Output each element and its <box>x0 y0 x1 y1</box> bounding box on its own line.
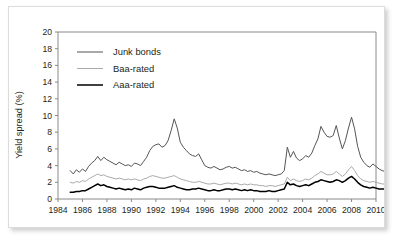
y-axis-ticks: 02468101214161820 <box>42 27 58 204</box>
x-tick-label: 1990 <box>122 205 141 215</box>
legend-label-baa-rated: Baa-rated <box>113 63 154 74</box>
y-tick-label: 12 <box>42 94 52 104</box>
x-tick-label: 1988 <box>97 205 116 215</box>
y-tick-label: 6 <box>47 144 52 154</box>
x-tick-label: 2002 <box>269 205 288 215</box>
x-tick-label: 1984 <box>48 205 67 215</box>
x-tick-label: 1994 <box>171 205 190 215</box>
x-tick-label: 1996 <box>195 205 214 215</box>
x-axis-ticks: 1984198619881990199219941996199820002002… <box>48 199 384 215</box>
figure-container: Yield spread (%) 02468101214161820 19841… <box>8 6 385 228</box>
x-tick-label: 2006 <box>318 205 337 215</box>
x-tick-label: 2010 <box>366 205 384 215</box>
y-tick-label: 2 <box>47 177 52 187</box>
y-tick-label: 18 <box>42 44 52 54</box>
y-tick-label: 10 <box>42 111 52 121</box>
y-tick-label: 4 <box>47 161 52 171</box>
x-tick-label: 2004 <box>293 205 312 215</box>
y-tick-label: 0 <box>47 194 52 204</box>
y-tick-label: 16 <box>42 60 52 70</box>
y-tick-label: 20 <box>42 27 52 37</box>
legend-label-junk-bonds: Junk bonds <box>113 46 161 57</box>
x-tick-label: 2008 <box>342 205 361 215</box>
y-axis-title: Yield spread (%) <box>14 91 24 159</box>
plot-frame <box>58 32 376 199</box>
y-tick-label: 8 <box>47 127 52 137</box>
x-tick-label: 1992 <box>146 205 165 215</box>
yield-spread-line-chart: Yield spread (%) 02468101214161820 19841… <box>9 7 384 227</box>
legend-label-aaa-rated: Aaa-rated <box>113 79 154 90</box>
x-tick-label: 2000 <box>244 205 263 215</box>
y-tick-label: 14 <box>42 77 52 87</box>
chart-legend: Junk bondsBaa-ratedAaa-rated <box>77 46 161 90</box>
y-axis-title-group: Yield spread (%) <box>14 91 24 159</box>
x-tick-label: 1998 <box>220 205 239 215</box>
x-tick-label: 1986 <box>73 205 92 215</box>
